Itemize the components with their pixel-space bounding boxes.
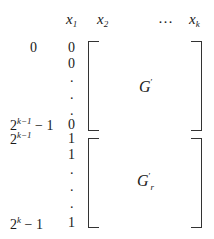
upper-end-suffix: − 1 <box>32 118 54 133</box>
x1-lower-last: 1 <box>68 216 75 230</box>
row-label-top: 0 <box>30 41 37 55</box>
upper-block-label: G′ <box>139 78 153 95</box>
x1-lower-dot-2: . <box>70 180 74 194</box>
lower-block-label: G′r <box>137 172 154 192</box>
x1-upper-1: 0 <box>68 57 75 71</box>
x1-upper-last: 0 <box>68 118 75 132</box>
header-x2: x2 <box>97 12 108 29</box>
x1-upper-dot-2: . <box>70 88 74 102</box>
header-xk: xk <box>189 12 200 29</box>
header-x1-sub: 1 <box>73 19 78 29</box>
lower-left-bracket <box>88 138 99 228</box>
header-x2-sub: 2 <box>104 19 109 29</box>
lower-start-exp: k−1 <box>17 130 32 140</box>
lower-block-sub: r <box>151 182 155 192</box>
upper-end-exp: k−1 <box>17 116 32 126</box>
row-label-lower-end: 2k − 1 <box>10 216 43 232</box>
header-x2-var: x <box>97 11 104 27</box>
lower-right-bracket <box>191 138 202 228</box>
lower-block-prime: ′ <box>149 171 151 181</box>
lower-block-name: G <box>137 172 149 189</box>
lower-start-base: 2 <box>10 132 17 147</box>
x1-lower-0: 1 <box>68 132 75 146</box>
x1-lower-dot-1: . <box>70 163 74 177</box>
upper-block-prime: ′ <box>151 77 153 87</box>
row-label-lower-start: 2k−1 <box>10 131 32 147</box>
header-xk-var: x <box>189 11 196 27</box>
x1-upper-0: 0 <box>68 41 75 55</box>
header-x1: x1 <box>66 12 77 29</box>
header-ellipsis: … <box>158 11 173 26</box>
x1-lower-dot-3: . <box>70 197 74 211</box>
lower-end-suffix: − 1 <box>21 217 43 232</box>
header-xk-sub: k <box>196 19 200 29</box>
upper-block-name: G <box>139 78 151 95</box>
lower-end-base: 2 <box>10 217 17 232</box>
x1-upper-dot-1: . <box>70 71 74 85</box>
x1-lower-1: 1 <box>68 148 75 162</box>
upper-left-bracket <box>88 41 99 131</box>
upper-right-bracket <box>191 41 202 131</box>
header-x1-var: x <box>66 11 73 27</box>
x1-upper-dot-3: . <box>70 104 74 118</box>
